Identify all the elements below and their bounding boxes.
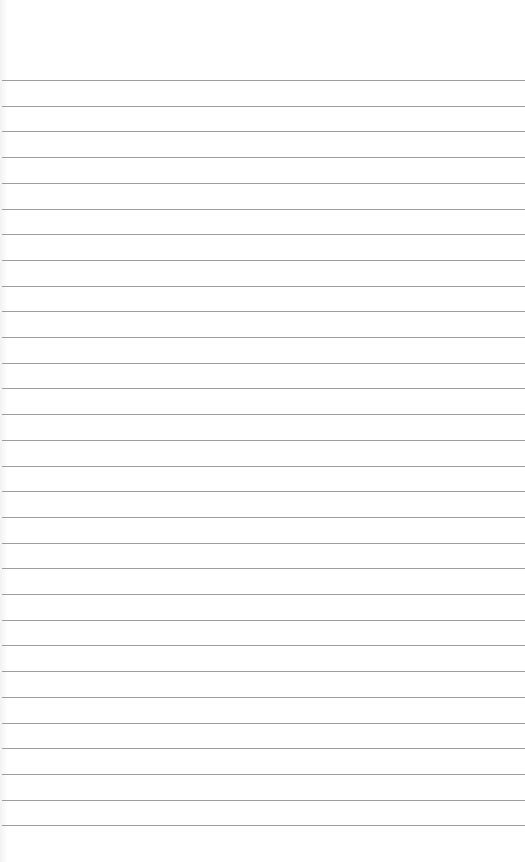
ruled-line xyxy=(2,517,525,518)
ruled-line xyxy=(2,337,525,338)
ruled-line xyxy=(2,620,525,621)
ruled-line xyxy=(2,671,525,672)
ruled-line xyxy=(2,234,525,235)
ruled-line xyxy=(2,311,525,312)
ruled-line xyxy=(2,157,525,158)
ruled-line xyxy=(2,388,525,389)
ruled-line xyxy=(2,748,525,749)
ruled-line xyxy=(2,260,525,261)
ruled-line xyxy=(2,183,525,184)
ruled-line xyxy=(2,440,525,441)
ruled-line xyxy=(2,543,525,544)
ruled-line xyxy=(2,106,525,107)
ruled-line xyxy=(2,466,525,467)
lined-paper-sheet xyxy=(0,0,525,862)
ruled-line xyxy=(2,414,525,415)
ruled-line xyxy=(2,723,525,724)
ruled-line xyxy=(2,568,525,569)
ruled-line xyxy=(2,697,525,698)
ruled-line xyxy=(2,645,525,646)
ruled-line xyxy=(2,131,525,132)
ruled-line xyxy=(2,286,525,287)
ruled-line xyxy=(2,80,525,81)
ruled-line xyxy=(2,491,525,492)
ruled-line xyxy=(2,800,525,801)
ruled-line xyxy=(2,825,525,826)
ruled-line xyxy=(2,209,525,210)
ruled-line xyxy=(2,774,525,775)
ruled-line xyxy=(2,363,525,364)
ruled-line xyxy=(2,594,525,595)
